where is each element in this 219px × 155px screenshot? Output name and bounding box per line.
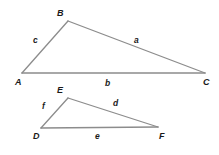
side-label-a: a bbox=[134, 35, 139, 45]
side-label-f: f bbox=[42, 101, 46, 111]
triangle-abc: A B C a b c bbox=[14, 8, 210, 88]
vertex-label-f: F bbox=[159, 131, 165, 141]
vertex-label-b: B bbox=[57, 8, 64, 18]
triangle-def: D E F d e f bbox=[33, 85, 165, 141]
side-label-e: e bbox=[95, 131, 100, 141]
vertex-label-a: A bbox=[14, 77, 22, 87]
side-f-line bbox=[41, 98, 68, 128]
vertex-label-c: C bbox=[203, 77, 210, 87]
vertex-label-e: E bbox=[57, 85, 64, 95]
side-a-line bbox=[68, 21, 205, 73]
side-label-c: c bbox=[33, 35, 38, 45]
side-label-b: b bbox=[105, 78, 110, 88]
side-e-line bbox=[41, 127, 158, 128]
side-c-line bbox=[22, 21, 68, 73]
geometry-canvas: A B C a b c D E F d e f bbox=[0, 0, 219, 155]
geometry-figure: A B C a b c D E F d e f bbox=[0, 0, 219, 155]
vertex-label-d: D bbox=[33, 131, 40, 141]
side-label-d: d bbox=[113, 98, 119, 108]
